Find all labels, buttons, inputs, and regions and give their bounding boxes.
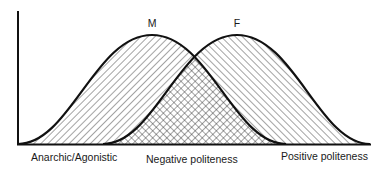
x-label-anarchic-agonistic: Anarchic/Agonistic	[31, 151, 117, 163]
curve-f-label: F	[234, 17, 240, 29]
x-label-negative-politeness: Negative politeness	[146, 153, 238, 165]
x-label-positive-politeness: Positive politeness	[281, 150, 368, 162]
curve-m-label: M	[148, 17, 157, 29]
politeness-distribution-diagram	[0, 0, 389, 172]
